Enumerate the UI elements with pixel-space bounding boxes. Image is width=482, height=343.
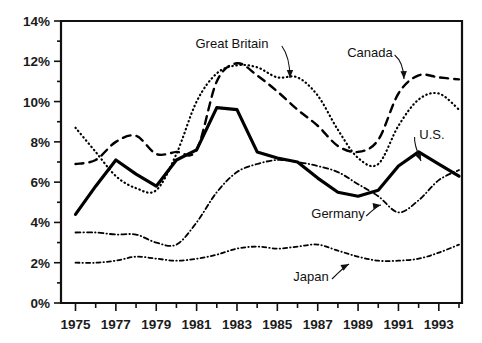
x-tick-label: 1983: [222, 317, 253, 332]
y-tick-label: 10%: [23, 95, 50, 110]
y-tick-label: 8%: [30, 135, 50, 150]
series-label-japan: Japan: [293, 269, 328, 284]
x-tick-label: 1975: [60, 317, 91, 332]
x-tick-label: 1989: [343, 317, 373, 332]
x-tick-label: 1977: [101, 317, 131, 332]
unemployment-rate-line-chart: 0%2%4%6%8%10%12%14% 19751977197919811983…: [0, 0, 482, 343]
series-label-germany: Germany: [311, 206, 365, 221]
y-tick-label: 2%: [30, 256, 50, 271]
x-tick-label: 1987: [303, 317, 333, 332]
series-label-canada: Canada: [347, 45, 393, 60]
chart-canvas: 0%2%4%6%8%10%12%14% 19751977197919811983…: [0, 0, 482, 343]
chart-background: [0, 0, 482, 343]
x-tick-label: 1993: [424, 317, 455, 332]
y-tick-label: 6%: [30, 175, 50, 190]
series-label-u-s: U.S.: [419, 127, 444, 142]
x-tick-label: 1979: [141, 317, 171, 332]
x-tick-label: 1991: [383, 317, 414, 332]
y-tick-label: 0%: [30, 296, 50, 311]
x-tick-label: 1981: [182, 317, 213, 332]
y-tick-label: 12%: [23, 54, 50, 69]
series-label-great-britain: Great Britain: [196, 36, 269, 51]
y-tick-label: 14%: [23, 14, 50, 29]
y-tick-label: 4%: [30, 215, 50, 230]
x-tick-label: 1985: [262, 317, 293, 332]
